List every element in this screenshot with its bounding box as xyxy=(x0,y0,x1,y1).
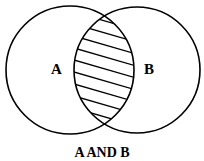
diagram-caption: A AND B xyxy=(74,145,129,160)
venn-diagram: A B A AND B xyxy=(0,0,204,161)
set-a-label: A xyxy=(51,61,62,77)
set-a-circle xyxy=(6,6,134,134)
set-b-label: B xyxy=(144,61,154,77)
set-b-circle xyxy=(74,7,200,133)
